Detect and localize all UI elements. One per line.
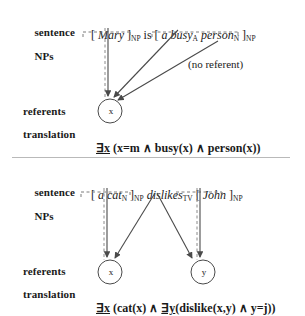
referent-circle-x [98, 99, 122, 123]
arrow-busy-to-x [114, 30, 178, 97]
brace-mary [83, 32, 130, 37]
arrow-john-to-y [197, 188, 200, 260]
diagram-lines-top [0, 0, 305, 157]
arrow-dislikes-to-x [115, 193, 155, 258]
arrow-a-cat-to-x [104, 188, 107, 260]
brace-a-cat [81, 192, 130, 197]
arrow-dislikes-to-y [157, 193, 192, 258]
brace-john [176, 192, 222, 197]
panel-a-cat-dislikes-john: sentence NPs [ a catN ]NP dislikesTV [ J… [0, 159, 305, 316]
panel-mary-is-a-busy-person: sentence NPs [ Mary ]NP is [ a busyA per… [0, 0, 305, 157]
diagram-lines-bottom [0, 159, 305, 316]
arrow-mary-to-x [105, 28, 108, 99]
arrow-person-to-x [118, 41, 218, 100]
panel-separator [12, 157, 290, 158]
brace-a-busy-person [152, 32, 238, 37]
referent-circle-y [191, 260, 215, 284]
referent-circle-x [98, 260, 122, 284]
